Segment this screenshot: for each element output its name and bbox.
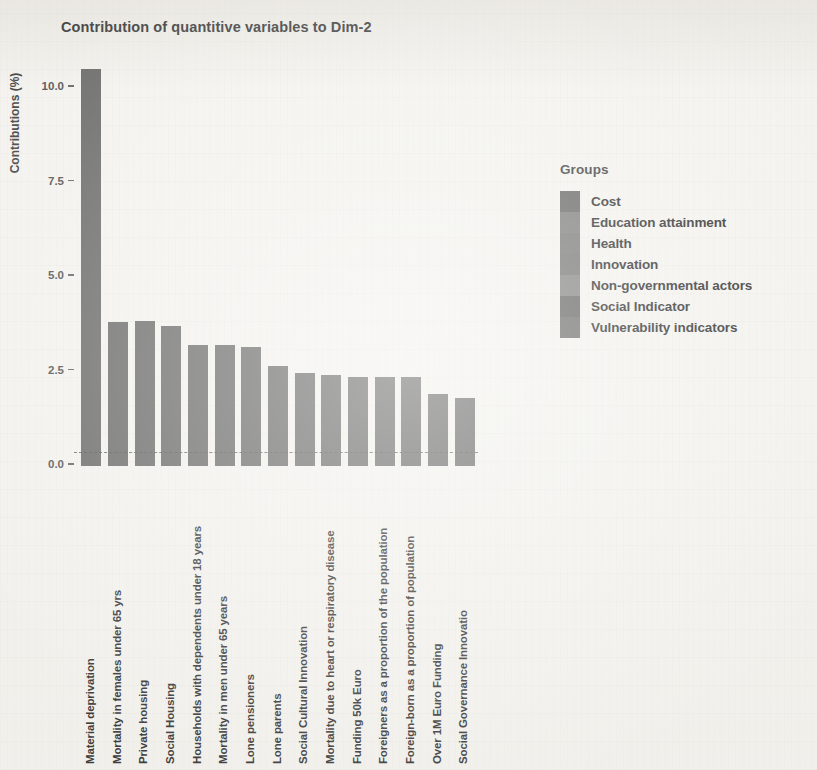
legend-item-label: Health (591, 236, 632, 251)
x-axis-labels: Material deprivationMortality in females… (78, 468, 478, 764)
y-axis-tick-mark (68, 85, 74, 87)
legend-item-label: Social Indicator (591, 299, 690, 314)
x-axis-label: Lone parents (271, 694, 283, 764)
y-axis: Contributions (%) 0.02.55.07.510.0 (0, 58, 74, 466)
contribution-bar-chart: Contribution of quantitive variables to … (0, 0, 817, 770)
legend-color-swatch (560, 275, 580, 296)
y-axis-tick-label: 2.5 (48, 364, 64, 376)
y-axis-tick-label: 0.0 (48, 458, 64, 470)
y-axis-tick: 5.0 (48, 269, 74, 281)
bar[interactable] (188, 345, 208, 466)
y-axis-tick: 7.5 (48, 175, 74, 187)
legend-item-label: Innovation (591, 257, 658, 272)
legend-item[interactable]: Cost (560, 191, 752, 212)
chart-title: Contribution of quantitive variables to … (61, 19, 372, 35)
legend-item[interactable]: Education attainment (560, 212, 752, 233)
x-axis-label: Mortality due to heart or respiratory di… (324, 530, 336, 764)
legend-item-label: Non-governmental actors (591, 278, 752, 293)
legend-color-swatch (560, 233, 580, 254)
y-axis-tick-label: 5.0 (48, 269, 64, 281)
bar[interactable] (161, 326, 181, 466)
x-axis-label: Foreign-born as a proportion of populati… (404, 536, 416, 764)
bar[interactable] (108, 322, 128, 466)
bar[interactable] (428, 394, 448, 466)
legend-color-swatch (560, 317, 580, 338)
bar[interactable] (455, 398, 475, 466)
x-axis-label: Mortality in females under 65 yrs (111, 590, 123, 764)
legend-color-swatch (560, 296, 580, 317)
bar[interactable] (215, 345, 235, 466)
bar[interactable] (81, 69, 101, 466)
legend: Groups CostEducation attainmentHealthInn… (560, 162, 752, 338)
legend-color-swatch (560, 212, 580, 233)
legend-title: Groups (560, 162, 752, 177)
x-axis-label: Social Cultural Innovation (297, 626, 309, 764)
legend-item-label: Education attainment (591, 215, 726, 230)
y-axis-tick-mark (68, 180, 74, 182)
y-axis-tick-mark (68, 369, 74, 371)
y-axis-tick-mark (68, 463, 74, 465)
y-axis-tick: 10.0 (42, 80, 74, 92)
y-axis-tick-label: 7.5 (48, 175, 64, 187)
legend-item-label: Vulnerability indicators (591, 320, 737, 335)
legend-item[interactable]: Vulnerability indicators (560, 317, 752, 338)
legend-item[interactable]: Health (560, 233, 752, 254)
x-axis-label: Material deprivation (84, 658, 96, 764)
x-axis-label: Funding 50k Euro (351, 669, 363, 764)
x-axis-label: Private housing (137, 680, 149, 764)
y-axis-tick: 0.0 (48, 458, 74, 470)
legend-item-label: Cost (591, 194, 621, 209)
x-axis-label: Foreigners as a proportion of the popula… (377, 528, 389, 764)
y-axis-tick-label: 10.0 (42, 80, 64, 92)
legend-item[interactable]: Innovation (560, 254, 752, 275)
x-axis-label: Over 1M Euro Funding (431, 644, 443, 764)
y-axis-title: Contributions (%) (8, 38, 22, 208)
legend-item-list: CostEducation attainmentHealthInnovation… (560, 191, 752, 338)
bar[interactable] (241, 347, 261, 466)
plot-panel (78, 58, 478, 466)
x-axis-label: Social Housing (164, 683, 176, 764)
reference-line (74, 452, 478, 453)
legend-color-swatch (560, 254, 580, 275)
x-axis-label: Households with dependents under 18 year… (191, 526, 203, 764)
bars-layer (78, 58, 478, 466)
legend-item[interactable]: Social Indicator (560, 296, 752, 317)
x-axis-label: Social Governance Innovatio (457, 610, 469, 764)
y-axis-tick-mark (68, 274, 74, 276)
legend-color-swatch (560, 191, 580, 212)
bar[interactable] (135, 321, 155, 466)
legend-item[interactable]: Non-governmental actors (560, 275, 752, 296)
x-axis-label: Lone pensioners (244, 674, 256, 764)
y-axis-tick: 2.5 (48, 364, 74, 376)
x-axis-label: Mortality in men under 65 years (217, 596, 229, 764)
